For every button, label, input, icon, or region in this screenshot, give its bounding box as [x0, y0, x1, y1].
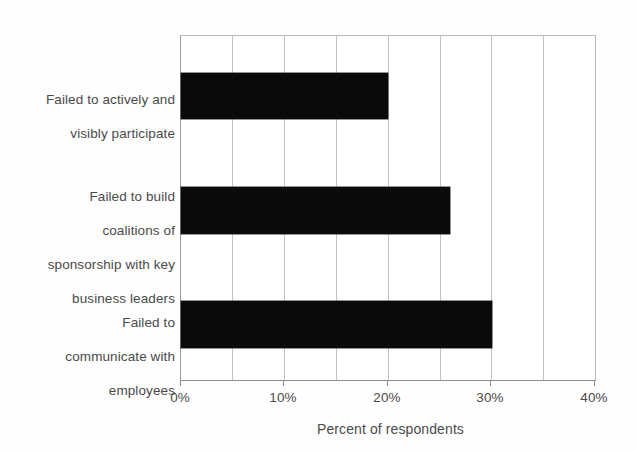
x-tick-label-10: 10% — [253, 390, 313, 406]
x-tick-label-20: 20% — [357, 390, 417, 406]
tick-mark-30 — [490, 381, 491, 386]
bar-failed-to-communicate — [181, 301, 492, 348]
bar-failed-to-actively-participate — [181, 73, 388, 119]
x-tick-label-40: 40% — [564, 390, 624, 406]
category-label-1-line2: visibly participate — [46, 125, 175, 142]
tick-mark-0 — [180, 381, 181, 386]
category-label-2-line1: Failed to build — [48, 188, 175, 205]
gridline-35 — [543, 36, 544, 380]
tick-mark-20 — [387, 381, 388, 386]
x-axis-title-text: Percent of respondents — [317, 421, 464, 437]
plot-area — [180, 35, 596, 381]
tick-mark-10 — [283, 381, 284, 386]
x-tick-label-0: 0% — [150, 390, 210, 406]
tick-mark-40 — [594, 381, 595, 386]
x-axis-title: Percent of respondents — [0, 421, 637, 437]
category-label-3-line1: Failed to — [65, 314, 175, 331]
category-label-2-line2: coalitions of — [48, 222, 175, 239]
category-label-1-line1: Failed to actively and — [46, 91, 175, 108]
category-label-3-line2: communicate with — [65, 348, 175, 365]
category-label-2-line3: sponsorship with key — [48, 256, 175, 273]
bar-failed-to-build-coalitions — [181, 187, 450, 234]
category-label-1: Failed to actively and visibly participa… — [46, 74, 175, 159]
bar-chart: Failed to actively and visibly participa… — [0, 0, 637, 451]
x-tick-label-30: 30% — [460, 390, 520, 406]
